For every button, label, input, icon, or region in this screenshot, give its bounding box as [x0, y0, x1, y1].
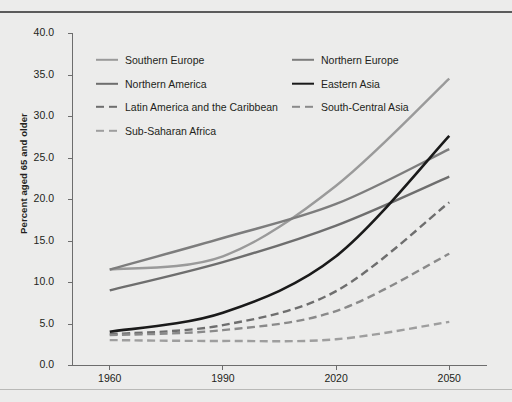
legend-label: Sub-Saharan Africa	[125, 125, 216, 137]
legend-label: Eastern Asia	[321, 78, 380, 90]
series-line-northern-europe	[110, 149, 450, 269]
legend-label: Northern Europe	[321, 54, 399, 66]
legend-swatch-line-icon	[292, 78, 314, 90]
legend-label: Southern Europe	[125, 54, 204, 66]
legend-swatch-line-icon	[96, 54, 118, 66]
legend-swatch-line-icon	[96, 125, 118, 137]
legend-label: Northern America	[125, 78, 207, 90]
chart-legend: Southern EuropeNorthern EuropeNorthern A…	[96, 54, 426, 148]
legend-item[interactable]: Eastern Asia	[292, 78, 380, 90]
legend-item[interactable]: Sub-Saharan Africa	[96, 125, 292, 137]
legend-item[interactable]: Northern America	[96, 78, 292, 90]
chart-figure: Percent aged 65 and older 0.05.010.015.0…	[0, 0, 512, 402]
legend-item[interactable]: Northern Europe	[292, 54, 399, 66]
legend-label: South-Central Asia	[321, 101, 409, 113]
legend-item[interactable]: Southern Europe	[96, 54, 292, 66]
bottom-divider-rule	[0, 389, 512, 390]
legend-row: Sub-Saharan Africa	[96, 125, 426, 137]
legend-row: Latin America and the CaribbeanSouth-Cen…	[96, 101, 426, 113]
legend-swatch-line-icon	[96, 101, 118, 113]
legend-swatch-line-icon	[292, 54, 314, 66]
series-line-eastern-asia	[110, 136, 450, 332]
legend-swatch-line-icon	[96, 78, 118, 90]
legend-swatch-line-icon	[292, 101, 314, 113]
figure-caption	[0, 394, 512, 402]
legend-item[interactable]: Latin America and the Caribbean	[96, 101, 292, 113]
series-line-south-central-asia	[110, 254, 450, 335]
legend-row: Northern AmericaEastern Asia	[96, 78, 426, 90]
legend-item[interactable]: South-Central Asia	[292, 101, 409, 113]
legend-label: Latin America and the Caribbean	[125, 101, 278, 113]
legend-row: Southern EuropeNorthern Europe	[96, 54, 426, 66]
